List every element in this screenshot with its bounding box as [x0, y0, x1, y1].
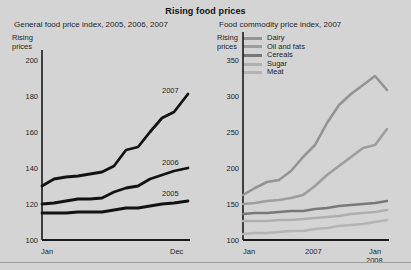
right-series-oil-and-fats-line — [243, 129, 387, 204]
right-series-dairy-line — [243, 76, 387, 195]
right-chart-panel: Food commodity price index, 2007 Rising … — [205, 18, 411, 260]
left-chart-panel: General food price index, 2005, 2006, 20… — [0, 18, 205, 260]
bottom-divider — [0, 262, 411, 263]
right-series-sugar-line — [243, 210, 387, 221]
right-plot-area — [205, 18, 411, 260]
left-series-2006-line — [42, 168, 188, 204]
chart-figure: Rising food prices General food price in… — [0, 0, 411, 270]
left-plot-area — [0, 18, 205, 260]
page-title: Rising food prices — [0, 6, 411, 16]
left-series-2005-line — [42, 201, 188, 213]
